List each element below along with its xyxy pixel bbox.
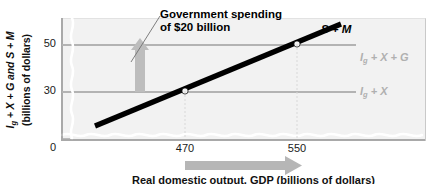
x-tick-label-550: 550 [277,142,317,154]
y-axis-title-rest: + X + G and S + M [4,32,16,122]
curve-label-ig-x: Ig + X [360,85,388,99]
curve-label-s-m: S + M [321,23,351,35]
y-axis-title-units: (billions of dollars) [20,10,32,150]
curve-label-ig-x-rest: + X [368,85,388,97]
y-axis-title: Ig + X + G and S + M (billions of dollar… [4,10,32,150]
y-tick-label-30: 30 [30,84,56,96]
annotation-line-1: Government spending [160,8,282,21]
x-tick-label-470: 470 [165,142,205,154]
chart-canvas: Ig + X + G and S + M (billions of dollar… [0,0,445,184]
y-tick-label-50: 50 [30,37,56,49]
curve-label-ig-x-g-rest: + X + G [368,51,409,63]
y-tick-label-0: 0 [30,141,56,153]
output-expansion-arrow [185,156,302,175]
shift-arrow-up [131,38,149,92]
government-spending-annotation: Government spending of $20 billion [160,8,282,34]
curve-label-ig-x-g: Ig + X + G [360,51,409,65]
x-axis-caption: Real domestic output, GDP (billions of d… [62,174,445,184]
annotation-leader-line [131,16,160,62]
annotation-line-2: of $20 billion [160,21,282,34]
y-axis-break-squiggle [71,18,73,138]
x-axis-break-squiggle [62,134,422,136]
y-axis-title-subscript: g [9,121,18,125]
series-line-sm [95,24,341,126]
y-axis-title-main: I [4,126,16,129]
